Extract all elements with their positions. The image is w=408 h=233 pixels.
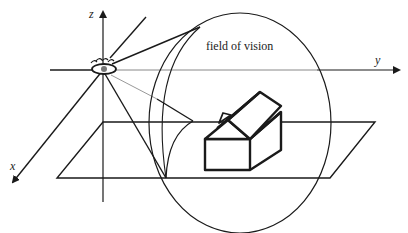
label-z-axis: z	[88, 7, 94, 21]
label-x-axis: x	[9, 159, 16, 173]
diagram-canvas: field of vision y z x	[0, 0, 408, 233]
label-y-axis: y	[374, 53, 381, 67]
label-field-of-vision: field of vision	[206, 39, 273, 53]
cone-curve-outer	[162, 27, 200, 178]
diagram-svg: field of vision y z x	[0, 0, 408, 233]
house	[205, 92, 281, 170]
cone-curve	[166, 121, 193, 178]
x-axis	[13, 70, 103, 182]
